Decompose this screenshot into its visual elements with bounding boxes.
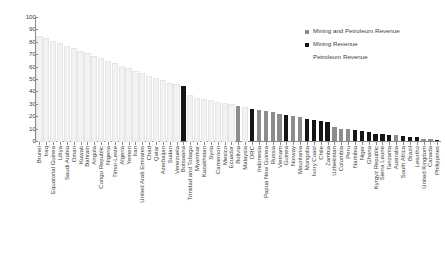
x-axis-tick-mark (91, 142, 98, 145)
bar-cell (427, 17, 434, 141)
x-axis-tick-mark (372, 142, 379, 145)
x-axis-tick-label: Russia (270, 146, 276, 164)
x-axis-tick-mark (228, 142, 235, 145)
x-axis-tick-mark (57, 142, 64, 145)
bar (435, 140, 439, 141)
x-axis-tick-label: Uzbekistan (331, 146, 337, 176)
x-axis-tick-mark (434, 142, 441, 145)
bar (195, 99, 199, 141)
bar (223, 104, 227, 141)
x-axis-tick-mark (84, 142, 91, 145)
y-axis-tick-label: 0 (6, 138, 36, 144)
y-axis-tick-label: 40 (6, 88, 36, 94)
y-axis-tick-label: 100 (6, 14, 36, 20)
x-axis-tick-mark (63, 142, 70, 145)
bar (85, 54, 89, 141)
x-axis-tick-label: Congo Republic (98, 146, 104, 189)
bar (154, 79, 158, 141)
bar (339, 129, 343, 141)
x-axis-tick-label: Malaysia (242, 146, 248, 170)
bar (72, 49, 76, 141)
bar-cell (283, 17, 290, 141)
bar-cell (98, 17, 105, 141)
x-axis-label-cell: Equatorial Guinea (50, 146, 57, 254)
x-axis-tick-label: Cameroon (215, 146, 221, 174)
y-axis-tick-mark (35, 129, 38, 130)
bar-cell (70, 17, 77, 141)
bar (168, 84, 172, 141)
y-axis-tick-mark (35, 104, 38, 105)
x-axis-tick-mark (201, 142, 208, 145)
bar (373, 134, 377, 141)
x-axis-tick-label: Ecuador (228, 146, 234, 168)
bar (367, 132, 371, 141)
x-axis-tick-mark (304, 142, 311, 145)
x-axis-label-cell: Malaysia (242, 146, 249, 254)
bar-cell (77, 17, 84, 141)
bar (421, 139, 425, 141)
x-axis-label-cell: Namibia (352, 146, 359, 254)
bar (126, 69, 130, 141)
x-axis-label-cell: Colombia (338, 146, 345, 254)
x-axis-label-cell: Sierra Leone (379, 146, 386, 254)
bar-cell (91, 17, 98, 141)
bar (202, 100, 206, 141)
x-axis-tick-label: Nigeria (105, 146, 111, 165)
bar-cell (420, 17, 427, 141)
x-axis-label-cell: Trinidad and Tobago (187, 146, 194, 254)
x-axis-tick-mark (187, 142, 194, 145)
x-axis-tick-mark (111, 142, 118, 145)
x-axis-label-cell: Uzbekistan (331, 146, 338, 254)
x-axis-tick-label: Mauritania (297, 146, 303, 174)
x-axis-tick-mark (153, 142, 160, 145)
x-axis-tick-label: Iran (132, 146, 138, 156)
bar-cell (166, 17, 173, 141)
bar-cell (50, 17, 57, 141)
x-axis-tick-mark (132, 142, 139, 145)
x-axis-tick-label: Colombia (338, 146, 344, 171)
x-axis-label-cell: Algeria (118, 146, 125, 254)
bar-cell (228, 17, 235, 141)
x-axis-tick-mark (50, 142, 57, 145)
legend-item[interactable]: Mining and Petroleum Revenue (305, 28, 400, 35)
bar (209, 101, 213, 141)
x-axis-tick-label: Vietnam (277, 146, 283, 168)
x-axis-label-cell: Saudi Arabia (63, 146, 70, 254)
x-axis-tick-label: Philippines (434, 146, 440, 175)
x-axis-tick-label: Guinea (283, 146, 289, 165)
x-axis-tick-label: DRC (249, 146, 255, 159)
x-axis-label-cell: Bahrain (84, 146, 91, 254)
x-axis-tick-label: Kazakhstan (201, 146, 207, 177)
y-axis-tick-mark (35, 79, 38, 80)
x-axis-label-cell: Mauritania (297, 146, 304, 254)
bar-cell (180, 17, 187, 141)
x-axis-tick-label: Sudan (167, 146, 173, 163)
x-axis-tick-mark (214, 142, 221, 145)
y-axis-tick-mark (35, 54, 38, 55)
legend-item[interactable]: Petroleum Revenue (305, 54, 400, 61)
x-axis-tick-label: Zambia (325, 146, 331, 166)
x-axis-tick-mark (427, 142, 434, 145)
x-axis-label-cell: Botswana (180, 146, 187, 254)
bar (58, 44, 62, 141)
bar (394, 135, 398, 141)
x-axis-tick-mark (146, 142, 153, 145)
bar (277, 114, 281, 141)
x-axis-tick-mark (331, 142, 338, 145)
x-axis-tick-mark (379, 142, 386, 145)
x-axis-label-cell: Myanmar (194, 146, 201, 254)
x-axis-tick-mark (365, 142, 372, 145)
x-axis-tick-mark (406, 142, 413, 145)
bar-cell (276, 17, 283, 141)
bar (78, 52, 82, 141)
legend-item[interactable]: Mining Revenue (305, 41, 400, 48)
x-axis-tick-mark (352, 142, 359, 145)
x-axis-label-cell: Yemen (125, 146, 132, 254)
x-axis-label-cell: Cameroon (214, 146, 221, 254)
bar (332, 127, 336, 141)
x-axis-tick-label: Iraq (43, 146, 49, 156)
legend-item-label: Mining Revenue (313, 41, 358, 47)
bar-cell (111, 17, 118, 141)
x-axis-label-cell: DRC (249, 146, 256, 254)
x-axis-tick-label: Brunei (36, 146, 42, 163)
